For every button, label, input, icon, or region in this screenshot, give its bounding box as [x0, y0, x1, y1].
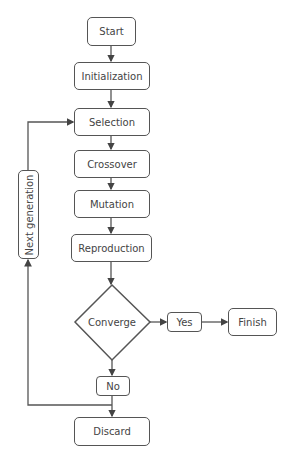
- selection-node: Selection: [74, 108, 150, 136]
- finish-node: Finish: [228, 308, 277, 336]
- start-node: Start: [87, 17, 136, 46]
- discard-node: Discard: [74, 417, 150, 446]
- next-generation-label: Next generation: [23, 174, 34, 255]
- crossover-node: Crossover: [74, 150, 150, 178]
- reproduction-node: Reproduction: [71, 234, 152, 262]
- initialization-node: Initialization: [74, 62, 150, 90]
- next-generation-node: Next generation: [18, 170, 39, 259]
- no-node: No: [96, 376, 130, 396]
- yes-node: Yes: [167, 312, 202, 332]
- mutation-node: Mutation: [74, 190, 150, 218]
- converge-label: Converge: [88, 317, 136, 328]
